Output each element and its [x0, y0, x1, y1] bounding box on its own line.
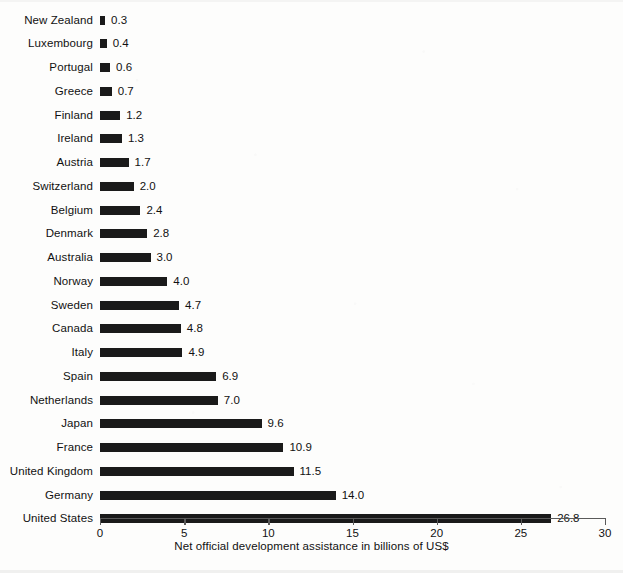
- category-label: Sweden: [0, 299, 93, 312]
- bar-row: Sweden4.7: [0, 293, 623, 317]
- bar: [100, 277, 167, 286]
- category-label: United Kingdom: [0, 465, 93, 478]
- bar-track: 2.0: [100, 174, 156, 198]
- bar-row: Belgium2.4: [0, 198, 623, 222]
- bar: [100, 206, 140, 215]
- bar-row: France10.9: [0, 436, 623, 460]
- category-label: Luxembourg: [0, 37, 93, 50]
- bar-value-label: 4.9: [188, 346, 204, 359]
- bar-value-label: 0.3: [111, 14, 127, 27]
- bar-track: 0.4: [100, 32, 129, 56]
- bar: [100, 396, 218, 405]
- bar-row: Spain6.9: [0, 364, 623, 388]
- bar-row: Switzerland2.0: [0, 174, 623, 198]
- bar-row: Luxembourg0.4: [0, 32, 623, 56]
- bar-track: 10.9: [100, 436, 312, 460]
- bar-track: 0.7: [100, 79, 134, 103]
- bar-row: Australia3.0: [0, 246, 623, 270]
- bar-value-label: 2.4: [146, 204, 162, 217]
- x-tick-mark: [437, 518, 438, 525]
- bar-row: Netherlands7.0: [0, 388, 623, 412]
- bar: [100, 63, 110, 72]
- bar-row: Austria1.7: [0, 151, 623, 175]
- scan-edge-top: [0, 0, 623, 2]
- bar-row: Portugal0.6: [0, 56, 623, 80]
- bar-row: Norway4.0: [0, 269, 623, 293]
- bar-track: 4.8: [100, 317, 203, 341]
- bar-value-label: 6.9: [222, 370, 238, 383]
- bar-value-label: 0.6: [116, 61, 132, 74]
- x-tick-label: 5: [164, 526, 204, 540]
- bar-row: Canada4.8: [0, 317, 623, 341]
- bar-track: 1.3: [100, 127, 144, 151]
- category-label: Ireland: [0, 132, 93, 145]
- bar: [100, 372, 216, 381]
- x-tick-label: 25: [501, 526, 541, 540]
- x-tick-label: 30: [585, 526, 623, 540]
- bar: [100, 39, 107, 48]
- bar-track: 14.0: [100, 483, 364, 507]
- bar-row: Germany14.0: [0, 483, 623, 507]
- bar: [100, 16, 105, 25]
- category-label: Japan: [0, 417, 93, 430]
- bar-value-label: 9.6: [268, 417, 284, 430]
- bar-value-label: 14.0: [342, 489, 364, 502]
- bar-track: 6.9: [100, 364, 238, 388]
- bar-row: Italy4.9: [0, 341, 623, 365]
- bar-value-label: 4.8: [187, 322, 203, 335]
- bar: [100, 158, 129, 167]
- x-tick-label: 20: [417, 526, 457, 540]
- bar-value-label: 4.0: [173, 275, 189, 288]
- bar: [100, 253, 151, 262]
- bar-track: 11.5: [100, 459, 321, 483]
- x-tick-mark: [268, 518, 269, 525]
- bar: [100, 324, 181, 333]
- bar-track: 7.0: [100, 388, 240, 412]
- bar-track: 1.2: [100, 103, 142, 127]
- bar: [100, 111, 120, 120]
- x-axis-title: Net official development assistance in b…: [0, 539, 623, 554]
- bar-value-label: 3.0: [157, 251, 173, 264]
- category-label: France: [0, 441, 93, 454]
- bar-value-label: 1.2: [126, 109, 142, 122]
- bar-track: 1.7: [100, 151, 151, 175]
- category-label: New Zealand: [0, 14, 93, 27]
- bar-row: Denmark2.8: [0, 222, 623, 246]
- bar-value-label: 0.7: [118, 85, 134, 98]
- bar: [100, 419, 262, 428]
- category-label: Italy: [0, 346, 93, 359]
- bar-row: Greece0.7: [0, 79, 623, 103]
- category-label: Netherlands: [0, 394, 93, 407]
- category-label: Portugal: [0, 61, 93, 74]
- category-label: Spain: [0, 370, 93, 383]
- bar: [100, 87, 112, 96]
- bar-row: Ireland1.3: [0, 127, 623, 151]
- category-label: Denmark: [0, 227, 93, 240]
- category-label: Canada: [0, 322, 93, 335]
- x-tick-mark: [521, 518, 522, 525]
- bar-track: 2.8: [100, 222, 169, 246]
- bar: [100, 348, 182, 357]
- category-label: Greece: [0, 85, 93, 98]
- bar-track: 9.6: [100, 412, 284, 436]
- bar-track: 3.0: [100, 246, 173, 270]
- bar-row: United Kingdom11.5: [0, 459, 623, 483]
- x-tick-label: 10: [248, 526, 288, 540]
- bar-value-label: 11.5: [300, 465, 322, 478]
- bar-value-label: 1.7: [135, 156, 151, 169]
- bar-track: 0.6: [100, 56, 132, 80]
- category-label: Austria: [0, 156, 93, 169]
- category-label: Finland: [0, 109, 93, 122]
- bar-track: 0.3: [100, 8, 127, 32]
- bar-value-label: 4.7: [185, 299, 201, 312]
- bar: [100, 443, 283, 452]
- bar-track: 4.7: [100, 293, 201, 317]
- bar-chart-figure: New Zealand0.3Luxembourg0.4Portugal0.6Gr…: [0, 0, 623, 573]
- x-tick-mark: [184, 518, 185, 525]
- bar-row: Japan9.6: [0, 412, 623, 436]
- x-tick-label: 15: [333, 526, 373, 540]
- bar: [100, 134, 122, 143]
- bar-row: Finland1.2: [0, 103, 623, 127]
- bar: [100, 491, 336, 500]
- x-tick-label: 0: [80, 526, 120, 540]
